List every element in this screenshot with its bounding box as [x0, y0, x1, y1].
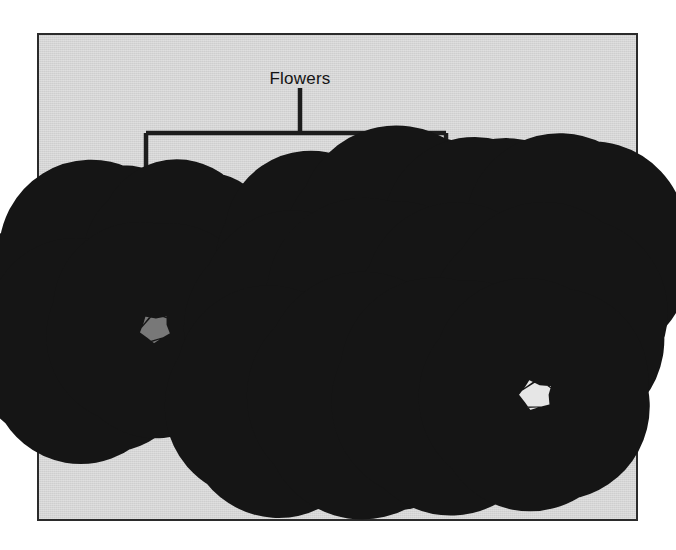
- yellow-flower-12: [494, 356, 576, 437]
- yellow-flower-cluster: [243, 208, 612, 444]
- root-node-label: Flowers: [270, 69, 331, 88]
- figure-canvas: Flowers Blue Flowers Yellow Flowers: [0, 0, 676, 550]
- blue-flower-4: [124, 299, 187, 360]
- tree-diagram: Flowers Blue Flowers Yellow Flowers: [0, 0, 676, 550]
